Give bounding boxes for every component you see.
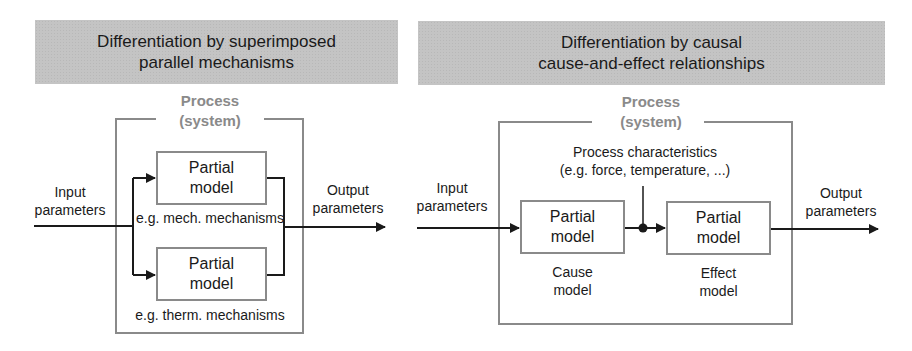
left-input-label-line2: parameters — [24, 201, 116, 219]
left-process-title: Process (system) — [156, 91, 264, 131]
left-model2-line2: model — [190, 274, 234, 294]
left-partial-model-mech: Partial model — [156, 151, 267, 205]
effect-model-caption: Effect model — [666, 264, 771, 300]
process-characteristics-label: Process characteristics (e.g. force, tem… — [545, 143, 745, 179]
effect-model-line1: Partial — [696, 208, 741, 228]
characteristics-line2: (e.g. force, temperature, ...) — [545, 161, 745, 179]
left-partial-model-therm: Partial model — [156, 247, 267, 301]
right-input-label-line1: Input — [406, 179, 498, 197]
left-banner: Differentiation by superimposed parallel… — [35, 20, 398, 84]
left-output-label-line2: parameters — [306, 199, 390, 217]
effect-model-line2: model — [697, 228, 741, 248]
left-process-title-line1: Process — [164, 91, 256, 111]
right-output-label-line1: Output — [795, 184, 887, 202]
left-process-title-line2: (system) — [164, 111, 256, 131]
cause-caption-line2: model — [520, 281, 625, 299]
left-model2-line1: Partial — [189, 254, 234, 274]
left-input-label-line1: Input — [24, 183, 116, 201]
right-banner-line2: cause-and-effect relationships — [538, 53, 765, 74]
cause-model-line2: model — [551, 227, 595, 247]
right-output-label-line2: parameters — [795, 202, 887, 220]
effect-partial-model: Partial model — [666, 201, 771, 255]
cause-model-line1: Partial — [550, 207, 595, 227]
right-banner-line1: Differentiation by causal — [561, 32, 742, 53]
right-process-title-line1: Process — [606, 92, 696, 112]
right-process-title-line2: (system) — [606, 112, 696, 132]
left-output-label: Output parameters — [306, 181, 390, 217]
left-input-label: Input parameters — [24, 183, 116, 219]
right-process-title: Process (system) — [598, 92, 704, 132]
left-banner-line2: parallel mechanisms — [139, 52, 294, 73]
right-input-label: Input parameters — [406, 179, 498, 215]
right-banner: Differentiation by causal cause-and-effe… — [418, 21, 885, 85]
left-output-label-line1: Output — [306, 181, 390, 199]
left-model1-caption: e.g. mech. mechanisms — [118, 209, 302, 227]
right-output-label: Output parameters — [795, 184, 887, 220]
left-model1-line2: model — [190, 178, 234, 198]
cause-model-caption: Cause model — [520, 263, 625, 299]
effect-caption-line1: Effect — [666, 264, 771, 282]
left-banner-line1: Differentiation by superimposed — [97, 31, 336, 52]
effect-caption-line2: model — [666, 282, 771, 300]
characteristics-line1: Process characteristics — [545, 143, 745, 161]
left-model2-caption: e.g. therm. mechanisms — [118, 306, 302, 324]
left-model1-line1: Partial — [189, 158, 234, 178]
cause-caption-line1: Cause — [520, 263, 625, 281]
right-input-label-line2: parameters — [406, 197, 498, 215]
cause-partial-model: Partial model — [520, 200, 625, 254]
